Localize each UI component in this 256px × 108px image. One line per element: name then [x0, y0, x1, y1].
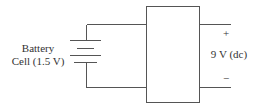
converter-box	[147, 7, 200, 103]
output-voltage-label: 9 V (dc)	[211, 48, 248, 61]
circuit-diagram: Battery Cell (1.5 V) + 9 V (dc) −	[0, 0, 256, 108]
output-plus-sign: +	[223, 27, 229, 39]
battery-label-line2: Cell (1.5 V)	[12, 55, 65, 68]
battery-label-line1: Battery	[22, 42, 55, 54]
output-minus-sign: −	[223, 72, 229, 84]
